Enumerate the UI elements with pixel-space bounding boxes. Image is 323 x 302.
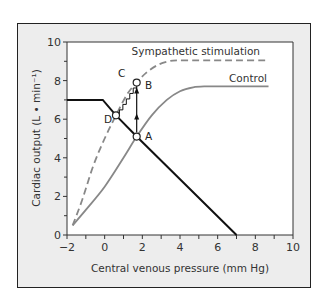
x-tick-label: −2 [59,241,75,254]
point-b [133,79,140,86]
legend-control: Control [229,72,267,84]
plot-area [67,42,293,235]
x-tick-label: 10 [286,241,300,254]
legend-sympathetic: Sympathetic stimulation [132,45,260,57]
x-tick-label: 8 [252,241,259,254]
x-tick-label: 6 [214,241,221,254]
x-tick-label: 0 [101,241,108,254]
y-tick-label: 8 [54,75,61,88]
cardiac-output-chart: −202468100246810 Sympathetic stimulation… [0,0,323,302]
y-tick-label: 10 [47,36,61,49]
point-label-a: A [145,130,153,142]
x-axis-title: Central venous pressure (mm Hg) [91,262,269,274]
x-tick-label: 4 [177,241,184,254]
point-d [112,112,119,119]
y-tick-label: 6 [54,113,61,126]
y-axis-title: Cardiac output (L • min⁻¹) [30,69,42,206]
y-tick-label: 2 [54,190,61,203]
point-label-d: D [104,113,112,125]
y-tick-label: 0 [54,229,61,242]
point-label-c: C [118,67,125,79]
x-tick-label: 2 [139,241,146,254]
y-tick-label: 4 [54,152,61,165]
point-label-b: B [145,79,152,91]
point-a [133,133,140,140]
